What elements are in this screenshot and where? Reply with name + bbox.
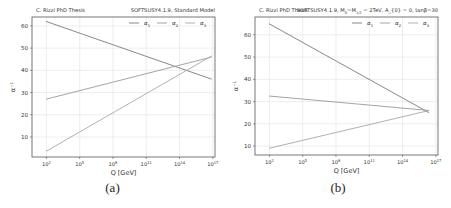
grid [32,17,215,157]
chart-a: C. Rizzi PhD ThesisSOFTSUSY4.1.9, Standa… [0,0,225,180]
y-axis-label: α⁻¹ [232,80,240,91]
x-tick-label: 108 [332,159,342,165]
legend: α1α2α3 [129,20,207,28]
x-tick-label: 105 [298,159,307,165]
y-tick-label: 50 [21,45,28,51]
chart-b: C. Rizzi PhD ThesisSOFTSUSY4.1.9, M0=M1/… [225,0,451,180]
y-tick-label: 20 [21,112,28,118]
legend-label: α3 [200,20,207,28]
y-tick-label: 50 [244,54,251,60]
caption-a: (a) [0,180,225,196]
x-tick-label: 1017 [430,159,441,165]
caption-b: (b) [225,180,451,196]
legend: α1α2α3 [352,20,430,28]
x-tick-label: 1011 [364,159,375,165]
y-tick-label: 20 [244,121,251,127]
x-tick-label: 108 [109,161,119,167]
plot-frame [255,17,438,155]
legend-label: α2 [395,20,402,28]
x-tick-label: 1017 [207,161,218,167]
x-tick-label: 105 [75,161,84,167]
x-tick-label: 1011 [141,161,152,167]
x-tick-label: 1014 [397,159,409,165]
y-axis-label: α⁻¹ [9,81,17,92]
axis-ticks: 102030405060102105108101110141017 [21,23,218,167]
x-tick-label: 102 [42,161,51,167]
y-tick-label: 60 [244,32,251,38]
header-left: C. Rizzi PhD Thesis [36,7,85,13]
series-line-α3 [269,111,429,149]
series-line-α2 [269,96,429,111]
y-tick-label: 10 [244,143,251,149]
y-tick-label: 40 [21,67,28,73]
series-line-α1 [269,24,429,113]
grid [255,17,438,155]
legend-label: α2 [172,20,179,28]
x-tick-label: 1014 [174,161,186,167]
x-axis-label: Q [GeV] [111,169,137,177]
series-line-α2 [46,57,212,99]
plot-frame [32,17,215,157]
legend-label: α1 [144,20,151,28]
legend-label: α3 [423,20,430,28]
y-tick-label: 30 [244,99,251,105]
y-tick-label: 60 [21,23,28,29]
y-tick-label: 40 [244,76,251,82]
y-tick-label: 30 [21,90,28,96]
x-axis-label: Q [GeV] [334,167,360,175]
axis-ticks: 102030405060102105108101110141017 [244,32,441,165]
chart-title: SOFTSUSY4.1.9, M0=M1/2 = 2TeV, A_{0} = 0… [297,7,438,15]
chart-panel-a: C. Rizzi PhD ThesisSOFTSUSY4.1.9, Standa… [0,0,225,208]
legend-label: α1 [367,20,374,28]
series-lines [269,24,429,149]
chart-title: SOFTSUSY4.1.9, Standard Model [131,7,215,13]
chart-panel-b: C. Rizzi PhD ThesisSOFTSUSY4.1.9, M0=M1/… [225,0,451,208]
y-tick-label: 10 [21,134,28,140]
x-tick-label: 102 [265,159,274,165]
series-lines [46,21,212,151]
